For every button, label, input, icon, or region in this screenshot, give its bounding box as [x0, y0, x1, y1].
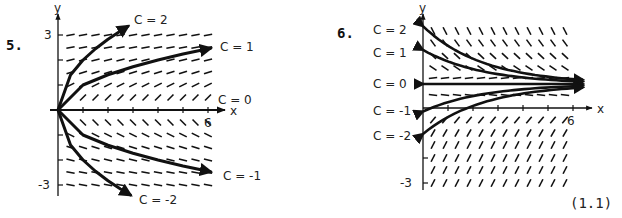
- slope-segment: [129, 184, 137, 185]
- slope-segment: [129, 59, 137, 61]
- slope-segment: [142, 146, 150, 149]
- slope-segment: [79, 34, 87, 35]
- slope-segment: [430, 117, 435, 123]
- slope-segment: [491, 129, 495, 136]
- slope-segment: [431, 166, 435, 173]
- slope-segment: [431, 129, 435, 136]
- slope-segment: [550, 53, 556, 59]
- slope-segment: [503, 179, 507, 186]
- slope-segment: [527, 27, 531, 34]
- slope-segment: [142, 83, 150, 87]
- slope-segment: [551, 166, 555, 173]
- problem-number-5: 5.: [6, 37, 23, 53]
- slope-segment: [154, 47, 162, 49]
- y-tick-label-neg3: -3: [38, 178, 50, 192]
- slope-segment: [467, 166, 471, 173]
- slope-segment: [527, 141, 531, 148]
- slope-segment: [563, 27, 567, 34]
- slope-segment: [192, 83, 200, 87]
- slope-segment: [193, 95, 199, 101]
- slope-segment: [491, 166, 495, 173]
- slope-segment: [167, 71, 175, 74]
- slope-segment: [467, 27, 471, 34]
- slope-segment: [118, 95, 124, 101]
- slope-segment: [191, 47, 199, 49]
- slope-segment: [515, 27, 519, 34]
- slope-segment: [479, 40, 484, 47]
- slope-segment: [503, 27, 507, 34]
- slope-segment: [191, 184, 199, 185]
- slope-segment: [551, 40, 556, 47]
- slope-segment: [549, 94, 557, 95]
- slope-segment: [117, 83, 125, 87]
- slope-segment: [143, 95, 149, 101]
- slope-segment: [116, 159, 124, 161]
- slope-segment: [503, 40, 508, 47]
- x-tick-label-6-6: 6: [567, 114, 575, 128]
- slope-segment: [179, 71, 187, 74]
- slope-segment: [91, 59, 99, 61]
- slope-segment: [538, 117, 543, 123]
- y-tick-label-neg3-6: -3: [400, 176, 412, 190]
- slope-segment: [92, 71, 100, 74]
- slope-segment: [455, 166, 459, 173]
- slope-segment: [167, 133, 175, 137]
- slope-segment: [538, 53, 544, 59]
- slope-segment: [561, 94, 569, 95]
- x-tick-label-6: 6: [204, 116, 212, 130]
- curve-label-c0: C = 0: [218, 93, 252, 107]
- slope-segment: [143, 120, 149, 126]
- slope-segment: [551, 27, 555, 34]
- slope-segment: [431, 179, 435, 186]
- slope-segment: [91, 34, 99, 35]
- slope-segment: [431, 40, 436, 47]
- slope-segment: [526, 117, 531, 123]
- slope-segment: [92, 133, 100, 137]
- slope-segment: [515, 141, 519, 148]
- slope-segment: [180, 95, 186, 101]
- slope-segment: [66, 159, 74, 161]
- slope-segment: [155, 95, 161, 101]
- slope-segment: [204, 184, 212, 185]
- slope-segment: [168, 95, 174, 101]
- slope-segment: [443, 129, 447, 136]
- slope-segment: [527, 154, 531, 161]
- slope-segment: [204, 59, 212, 61]
- curve-label-c0-6: C = 0: [373, 77, 407, 91]
- slope-segment: [563, 179, 567, 186]
- slope-segment: [91, 159, 99, 161]
- slope-segment: [167, 83, 175, 87]
- slope-segment: [141, 34, 149, 35]
- slope-segment: [104, 172, 112, 174]
- slope-segment: [455, 154, 459, 161]
- slope-segment: [204, 133, 212, 137]
- slope-segment: [130, 95, 136, 101]
- slope-segment: [539, 179, 543, 186]
- slope-segment: [204, 34, 212, 35]
- slope-segment: [167, 146, 175, 149]
- slope-segment: [166, 159, 174, 161]
- slope-segment: [192, 71, 200, 74]
- slope-segment: [193, 120, 199, 126]
- slope-segment: [539, 40, 544, 47]
- slope-segment: [104, 83, 112, 87]
- slope-segment: [79, 47, 87, 49]
- slope-segment: [491, 179, 495, 186]
- problem-number-6: 6.: [337, 25, 354, 41]
- slope-segment: [527, 166, 531, 173]
- slope-segment: [179, 146, 187, 149]
- slope-segment: [467, 179, 471, 186]
- slope-segment: [154, 71, 162, 74]
- slope-segment: [92, 146, 100, 149]
- slope-segment: [515, 179, 519, 186]
- slope-segment: [105, 120, 111, 126]
- y-axis-label-5: y: [54, 1, 61, 15]
- slope-segment: [539, 129, 543, 136]
- slope-segment: [562, 53, 568, 59]
- slope-segment: [515, 166, 519, 173]
- slope-segment: [79, 71, 87, 74]
- slope-segment: [154, 184, 162, 185]
- slope-segment: [491, 40, 496, 47]
- slope-segment: [491, 154, 495, 161]
- slope-segment: [537, 66, 544, 71]
